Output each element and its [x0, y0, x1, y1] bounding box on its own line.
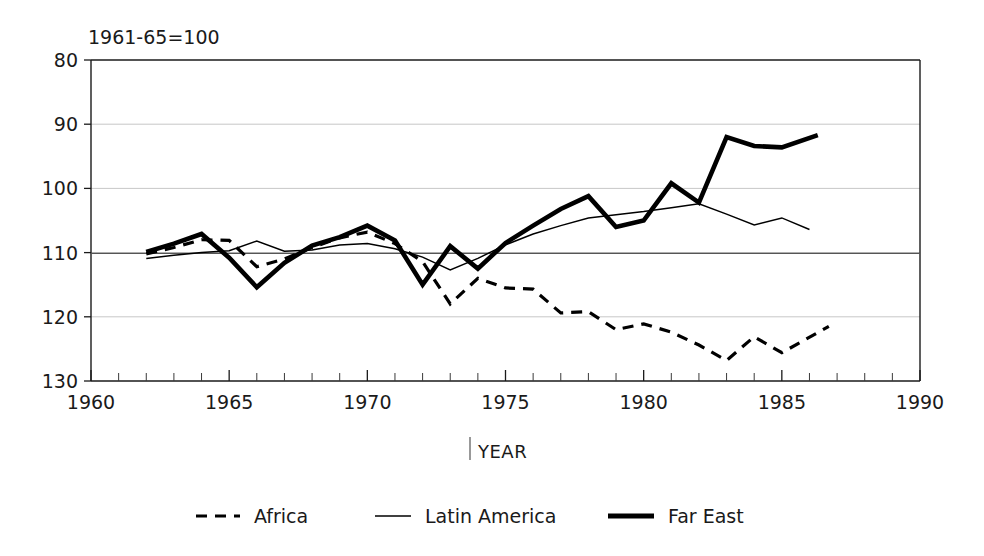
line-chart-figure: 1961-65=100 1301201101009080 19601965197…: [0, 0, 984, 556]
y-tick-label-120: 90: [54, 113, 78, 135]
x-tick-label-1985: 1985: [758, 391, 806, 413]
plot-frame: [91, 60, 920, 381]
x-axis: 1960196519701975198019851990: [67, 370, 944, 413]
y-tick-label-100: 110: [42, 242, 78, 264]
x-tick-label-1965: 1965: [205, 391, 253, 413]
series-line-latin-america: [146, 204, 809, 270]
legend-label: Africa: [254, 505, 308, 527]
y-tick-label-80: 130: [42, 370, 78, 392]
y-tick-label-130: 80: [54, 49, 78, 71]
y-tick-label-90: 120: [42, 306, 78, 328]
chart-legend: AfricaLatin AmericaFar East: [196, 505, 744, 527]
series-line-africa: [146, 232, 829, 360]
x-tick-label-1975: 1975: [481, 391, 529, 413]
x-tick-label-1970: 1970: [343, 391, 391, 413]
x-tick-label-1960: 1960: [67, 391, 115, 413]
legend-label: Latin America: [425, 505, 556, 527]
x-tick-label-1990: 1990: [896, 391, 944, 413]
legend-item-africa: Africa: [196, 505, 308, 527]
x-tick-label-1980: 1980: [619, 391, 667, 413]
x-axis-title: YEAR: [477, 441, 527, 462]
chart-container: 1961-65=100 1301201101009080 19601965197…: [0, 0, 984, 556]
data-series-group: [146, 135, 829, 360]
legend-label: Far East: [668, 505, 744, 527]
index-base-note: 1961-65=100: [88, 26, 220, 48]
legend-item-far-east: Far East: [608, 505, 744, 527]
legend-item-latin-america: Latin America: [375, 505, 556, 527]
y-tick-label-110: 100: [42, 177, 78, 199]
x-axis-title-group: YEAR: [470, 437, 527, 462]
y-axis: 1301201101009080: [42, 49, 91, 392]
